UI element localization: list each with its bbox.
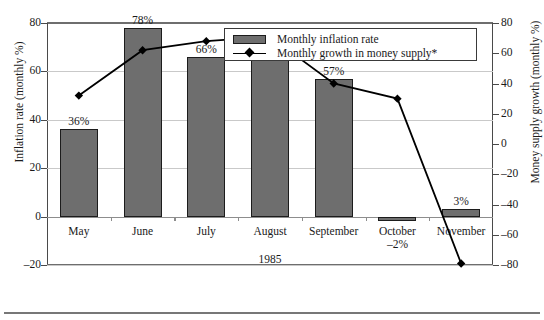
left-tick (41, 217, 47, 218)
left-tick-label: 0 (3, 211, 41, 223)
legend-bar-swatch-icon (233, 35, 266, 44)
legend-entry-inflation: Monthly inflation rate (233, 32, 379, 46)
right-tick (493, 265, 499, 266)
bar-value-label: 3% (431, 195, 491, 207)
right-tick-label: 40 (501, 78, 513, 90)
right-tick-label: –80 (501, 259, 518, 271)
left-tick-label: –20 (3, 259, 41, 271)
right-tick (493, 53, 499, 54)
right-tick-label: –20 (501, 168, 518, 180)
right-tick (493, 144, 499, 145)
left-axis-title: Inflation rate (monthly %) (13, 0, 25, 207)
left-tick (41, 168, 47, 169)
right-tick-label: –40 (501, 199, 518, 211)
right-tick-label: 0 (501, 138, 507, 150)
right-tick (493, 205, 499, 206)
legend-label-inflation: Monthly inflation rate (277, 33, 379, 45)
gridline (47, 265, 493, 266)
right-tick (493, 114, 499, 115)
left-tick (41, 120, 47, 121)
left-tick (41, 71, 47, 72)
legend-entry-money-supply: Monthly growth in money supply* (233, 46, 437, 60)
chart-figure: 806040200–20 806040200–20–40–60–80 36%78… (0, 0, 544, 320)
category-label: November (421, 225, 501, 237)
left-tick (41, 265, 47, 266)
category-tick (174, 217, 175, 221)
right-tick-label: 60 (501, 47, 513, 59)
chart-legend: Monthly inflation rate Monthly growth in… (224, 28, 477, 61)
bar (187, 57, 225, 217)
bar (315, 79, 353, 217)
bar-value-label: 57% (304, 65, 364, 77)
category-tick (302, 217, 303, 221)
bar-value-label: 36% (49, 115, 109, 127)
left-tick (41, 23, 47, 24)
category-tick (429, 217, 430, 221)
right-tick-label: 80 (501, 17, 513, 29)
zero-line (47, 217, 493, 218)
bar (251, 57, 289, 217)
bar (60, 129, 98, 216)
right-axis-title: Money supply growth (monthly %) (529, 0, 541, 217)
right-tick (493, 174, 499, 175)
right-tick (493, 84, 499, 85)
legend-label-money-supply: Monthly growth in money supply* (277, 47, 437, 59)
bar (124, 28, 162, 217)
x-axis-year-label: 1985 (230, 253, 310, 265)
bar-value-label: 78% (113, 14, 173, 26)
bar (442, 209, 480, 216)
right-tick-label: 20 (501, 108, 513, 120)
category-tick (238, 217, 239, 221)
category-tick (111, 217, 112, 221)
bar-value-label: –2% (367, 238, 427, 250)
right-tick (493, 23, 499, 24)
bar (378, 217, 416, 222)
category-tick (366, 217, 367, 221)
page-bottom-rule (4, 312, 540, 314)
right-tick-label: –60 (501, 229, 518, 241)
legend-line-marker-icon (233, 48, 266, 58)
